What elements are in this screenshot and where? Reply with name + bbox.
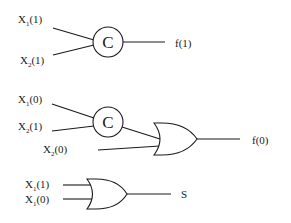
- input-label-x1-0: X1(0): [18, 93, 43, 108]
- wire-x1-0-to-c: [52, 104, 94, 118]
- circuit-1: X1(1) X2(1) C f(1): [18, 13, 192, 69]
- or-gate-2: [87, 179, 127, 209]
- wire-x1-to-c: [53, 28, 94, 40]
- logic-circuit-diagram: X1(1) X2(1) C f(1) X1(0) X2(1) X2(0) C f…: [0, 0, 291, 223]
- c-gate-label-2: C: [102, 113, 113, 132]
- wire-x2-0-to-or: [98, 146, 160, 150]
- input-label-x1-0-s: X1(0): [25, 193, 50, 208]
- input-label-x2-0: X2(0): [43, 143, 68, 158]
- circuit-3: X1(1) X1(0) S: [25, 178, 187, 209]
- wire-c-to-or: [122, 127, 160, 139]
- c-gate-label-1: C: [102, 33, 113, 52]
- input-label-x1-1: X1(1): [18, 13, 43, 28]
- circuit-2: X1(0) X2(1) X2(0) C f(0): [18, 93, 269, 158]
- output-label-s: S: [181, 188, 187, 200]
- wire-x2-to-c: [53, 45, 94, 55]
- or-gate-1: [154, 123, 197, 155]
- input-label-x1-1-s: X1(1): [25, 178, 50, 193]
- output-label-f0: f(0): [252, 134, 269, 147]
- input-label-x2-1: X2(1): [20, 54, 45, 69]
- input-label-x2-1: X2(1): [18, 120, 43, 135]
- wire-x2-1-to-c: [52, 126, 94, 131]
- output-label-f1: f(1): [175, 37, 192, 50]
